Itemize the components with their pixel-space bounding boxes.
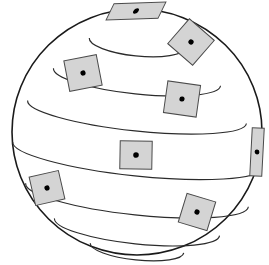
- figure-root: [0, 0, 269, 265]
- patch-lower-left: [29, 170, 65, 205]
- patch-mid-right: [163, 81, 200, 117]
- patch-center: [120, 141, 152, 170]
- patch-top: [106, 2, 166, 20]
- patch-upper-left: [64, 55, 102, 92]
- sphere-diagram: [0, 0, 269, 265]
- patch-limb-right: [250, 128, 264, 177]
